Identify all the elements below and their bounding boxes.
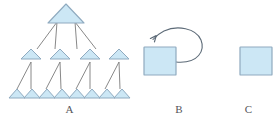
triangle-mid-1: [21, 49, 41, 59]
connector-root-to-n1: [37, 22, 57, 49]
connector-n2-to-l4: [60, 62, 61, 89]
triangle-leaf-2: [24, 89, 40, 98]
panel-b-label: B: [139, 103, 219, 116]
triangle-leaf-1: [9, 89, 25, 98]
square-c: [240, 47, 272, 75]
connector-root-to-n3: [75, 22, 77, 49]
triangle-leaf-6: [84, 89, 100, 98]
figure-root: A B C: [0, 0, 278, 126]
panel-c-label: C: [219, 103, 278, 116]
triangle-mid-2: [50, 49, 70, 59]
triangle-leaf-4: [54, 89, 70, 98]
connector-n2-to-l3: [46, 62, 60, 89]
triangle-mid-4: [109, 49, 129, 59]
connector-n4-to-l8: [119, 62, 120, 89]
triangle-leaf-5: [69, 89, 85, 98]
connector-root-to-n4: [75, 22, 96, 49]
triangle-level-3: [9, 89, 130, 98]
connector-root-to-n2: [55, 22, 57, 49]
connector-n1-to-l1: [17, 62, 31, 89]
triangle-level-2: [21, 49, 129, 59]
triangle-root: [48, 4, 84, 23]
square-b: [144, 47, 176, 75]
triangle-leaf-8: [114, 89, 130, 98]
connector-n3-to-l5: [76, 62, 90, 89]
connectors-level2-to-level3: [17, 62, 120, 89]
triangle-mid-3: [80, 49, 100, 59]
panel-a-hierarchy: A: [0, 0, 139, 126]
connectors-level1-to-level2: [37, 22, 96, 49]
triangle-leaf-7: [99, 89, 115, 98]
triangle-level-1: [48, 4, 84, 23]
connector-n4-to-l7: [105, 62, 119, 89]
panel-b-self-loop: B: [139, 0, 219, 126]
panel-c-single-element: C: [219, 0, 278, 126]
triangle-leaf-3: [39, 89, 55, 98]
panel-a-label: A: [0, 103, 139, 116]
